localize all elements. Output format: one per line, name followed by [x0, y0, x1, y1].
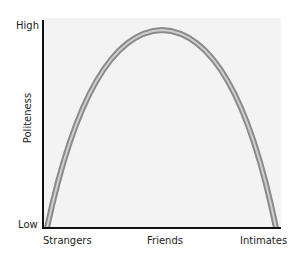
x-tick-friends: Friends [147, 236, 183, 246]
y-axis-line [42, 20, 44, 229]
y-tick-high: High [16, 21, 39, 31]
politeness-curve [0, 0, 299, 253]
y-tick-low: Low [18, 220, 38, 230]
y-axis-title: Politeness [23, 93, 33, 143]
x-axis-line [42, 227, 281, 229]
x-tick-strangers: Strangers [43, 236, 92, 246]
x-tick-intimates: Intimates [240, 236, 287, 246]
